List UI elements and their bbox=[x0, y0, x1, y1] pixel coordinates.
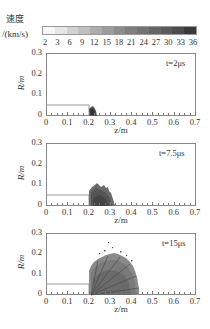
x-tick-mark bbox=[147, 292, 148, 294]
x-tick-mark bbox=[73, 292, 74, 294]
x-tick-label: 0 bbox=[44, 296, 48, 306]
x-tick-mark bbox=[46, 291, 47, 294]
y-tick-label: 0.1 bbox=[22, 268, 42, 278]
x-tick-label: 0.3 bbox=[105, 296, 116, 306]
x-tick-mark bbox=[184, 292, 185, 294]
x-tick-mark bbox=[179, 292, 180, 294]
x-tick-mark bbox=[152, 291, 153, 294]
x-tick-mark bbox=[110, 291, 111, 294]
x-tick-mark bbox=[83, 292, 84, 294]
plot-area bbox=[46, 233, 196, 295]
x-tick-mark bbox=[67, 291, 68, 294]
x-tick-label: 0.2 bbox=[83, 296, 94, 306]
x-tick-mark bbox=[195, 291, 196, 294]
x-tick-mark bbox=[89, 291, 90, 294]
x-tick-mark bbox=[78, 292, 79, 294]
x-tick-mark bbox=[62, 292, 63, 294]
x-tick-mark bbox=[115, 292, 116, 294]
x-tick-mark bbox=[174, 291, 175, 294]
x-tick-mark bbox=[105, 292, 106, 294]
y-tick-label: 0 bbox=[22, 288, 42, 298]
x-tick-mark bbox=[131, 291, 132, 294]
x-tick-label: 0.5 bbox=[147, 296, 158, 306]
x-tick-mark bbox=[142, 292, 143, 294]
chart-panel-t15: t=15μs R/m z/m 00.10.20.30.40.50.60.700.… bbox=[0, 0, 210, 329]
x-tick-mark bbox=[136, 292, 137, 294]
x-tick-mark bbox=[94, 292, 95, 294]
y-tick-label: 0.3 bbox=[22, 227, 42, 237]
x-tick-mark bbox=[168, 292, 169, 294]
x-tick-mark bbox=[57, 292, 58, 294]
x-tick-mark bbox=[51, 292, 52, 294]
x-tick-mark bbox=[126, 292, 127, 294]
x-tick-mark bbox=[99, 292, 100, 294]
y-tick-label: 0.2 bbox=[22, 247, 42, 257]
x-tick-mark bbox=[158, 292, 159, 294]
x-tick-label: 0.7 bbox=[190, 296, 201, 306]
x-tick-mark bbox=[190, 292, 191, 294]
x-tick-label: 0.1 bbox=[62, 296, 73, 306]
x-tick-label: 0.6 bbox=[168, 296, 179, 306]
x-tick-mark bbox=[121, 292, 122, 294]
x-tick-mark bbox=[163, 292, 164, 294]
x-tick-label: 0.4 bbox=[126, 296, 137, 306]
